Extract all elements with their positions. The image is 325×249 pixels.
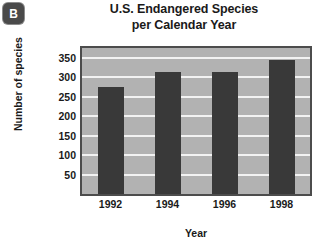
bar-1998	[269, 60, 295, 194]
panel-label-letter: B	[9, 8, 18, 20]
chart-title-line-2: per Calendar Year	[48, 18, 320, 34]
y-tick-label-350: 350	[58, 52, 76, 63]
y-axis-tick-labels: 50100150200250300350	[40, 46, 76, 196]
bar-1996	[212, 72, 238, 194]
figure-panel-b: B U.S. Endangered Species per Calendar Y…	[0, 0, 325, 249]
gridline-350	[82, 57, 310, 59]
x-tick-label-1998: 1998	[270, 199, 293, 210]
bar-1992	[98, 87, 124, 194]
chart-title: U.S. Endangered Species per Calendar Yea…	[48, 2, 320, 33]
x-tick-label-1994: 1994	[156, 199, 179, 210]
x-tick-label-1996: 1996	[213, 199, 236, 210]
x-tick-label-1992: 1992	[99, 199, 122, 210]
panel-label-badge: B	[3, 3, 24, 24]
bar-1994	[155, 72, 181, 194]
y-tick-label-100: 100	[58, 150, 76, 161]
chart-title-line-1: U.S. Endangered Species	[48, 2, 320, 18]
plot-frame	[80, 46, 312, 196]
y-tick-label-200: 200	[58, 111, 76, 122]
y-tick-label-250: 250	[58, 91, 76, 102]
y-tick-label-150: 150	[58, 130, 76, 141]
x-axis-tick-labels: 1992199419961998	[80, 199, 312, 215]
plot-area	[82, 48, 310, 194]
x-axis-title: Year	[80, 227, 312, 239]
y-axis-title: Number of species	[12, 25, 24, 143]
y-tick-label-50: 50	[64, 169, 76, 180]
y-tick-label-300: 300	[58, 72, 76, 83]
